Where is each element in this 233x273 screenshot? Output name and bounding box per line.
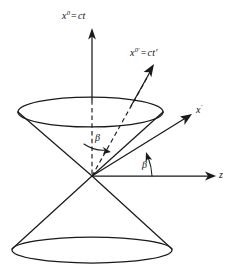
- angle-beta-lower-arc: [148, 157, 152, 176]
- past-light-cone: [12, 176, 172, 263]
- past-cone-base-ellipse: [12, 237, 172, 263]
- angle-beta-upper-arc: [84, 144, 107, 150]
- light-cone-drawing: [0, 0, 233, 273]
- future-cone-right-edge: [92, 112, 163, 176]
- x-prime-axis-label-sup: ': [201, 103, 203, 110]
- angle-beta-upper-label: β: [95, 133, 100, 143]
- x-prime-axis-arrowhead: [180, 114, 192, 125]
- angle-beta-lower-label: β: [142, 160, 147, 170]
- ct-prime-axis-label-value: ct': [148, 47, 158, 58]
- z-axis-label-base: z: [219, 169, 223, 180]
- future-cone-left-edge: [18, 112, 92, 176]
- ct-axis-label-value: ct: [78, 10, 86, 21]
- z-axis-label: z: [219, 170, 223, 180]
- light-cone-figure: x0=ct x0'=ct' x' z β β: [0, 0, 233, 273]
- future-cone-rim-front: [18, 112, 163, 127]
- ct-axis-label-equals: =: [70, 10, 78, 21]
- z-axis: [92, 172, 216, 181]
- ct-axis-label: x0=ct: [62, 11, 86, 21]
- ct-prime-axis-label: x0'=ct': [130, 48, 158, 58]
- ct-prime-axis-label-equals: =: [140, 47, 148, 58]
- past-cone-right-edge: [92, 176, 172, 249]
- x-prime-axis-label: x': [196, 105, 202, 115]
- ct-prime-axis-label-sup: 0': [135, 46, 140, 53]
- future-cone-rim-back: [18, 97, 163, 112]
- ct-axis: [88, 28, 96, 174]
- x-prime-axis-line: [92, 119, 184, 176]
- past-cone-left-edge: [12, 176, 92, 249]
